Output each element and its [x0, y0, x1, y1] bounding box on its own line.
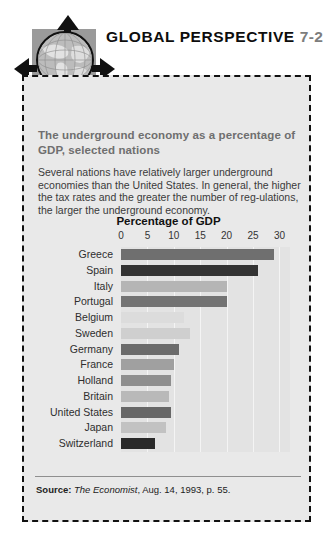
- bar: [121, 359, 174, 370]
- bar: [121, 312, 184, 323]
- category-label: United States: [24, 405, 117, 421]
- bar-row: [121, 263, 290, 279]
- category-label: Greece: [24, 247, 117, 263]
- content-box: The underground economy as a percentage …: [22, 75, 311, 522]
- x-tick-5: 5: [145, 230, 151, 241]
- source-publication: The Economist: [74, 484, 137, 495]
- arrow-left-stem: [27, 65, 37, 72]
- arrow-right-stem: [92, 65, 102, 72]
- bar-rows: [121, 247, 290, 452]
- x-axis-tick-labels: 051015202530: [121, 230, 290, 244]
- x-tick-30: 30: [274, 230, 285, 241]
- source-rest: , Aug. 14, 1993, p. 55.: [137, 484, 230, 495]
- bar: [121, 265, 258, 276]
- category-label: Britain: [24, 389, 117, 405]
- source-divider: [35, 476, 301, 477]
- bar-row: [121, 389, 290, 405]
- bar-row: [121, 279, 290, 295]
- category-label: Japan: [24, 420, 117, 436]
- bar: [121, 344, 179, 355]
- box-heading: The underground economy as a percentage …: [38, 128, 300, 158]
- category-label: Belgium: [24, 310, 117, 326]
- bar: [121, 422, 166, 433]
- bar-row: [121, 405, 290, 421]
- category-label: Italy: [24, 279, 117, 295]
- category-label: Germany: [24, 342, 117, 358]
- x-tick-20: 20: [221, 230, 232, 241]
- bar: [121, 375, 171, 386]
- bar: [121, 281, 227, 292]
- x-tick-10: 10: [168, 230, 179, 241]
- bar-row: [121, 436, 290, 452]
- bar-row: [121, 373, 290, 389]
- plot-area: [121, 247, 290, 452]
- bar-row: [121, 310, 290, 326]
- header-number: 7-2: [300, 28, 324, 45]
- bar-row: [121, 294, 290, 310]
- bar: [121, 296, 227, 307]
- bar: [121, 391, 169, 402]
- x-tick-0: 0: [118, 230, 124, 241]
- source-label: Source:: [36, 484, 71, 495]
- bar-row: [121, 342, 290, 358]
- category-label: Spain: [24, 263, 117, 279]
- header-title-text: GLOBAL PERSPECTIVE: [106, 28, 295, 45]
- category-label: Switzerland: [24, 436, 117, 452]
- x-tick-25: 25: [247, 230, 258, 241]
- bar-row: [121, 420, 290, 436]
- bar: [121, 328, 190, 339]
- source-line: Source: The Economist, Aug. 14, 1993, p.…: [36, 484, 302, 495]
- bar: [121, 407, 171, 418]
- category-label: France: [24, 357, 117, 373]
- category-label: Portugal: [24, 294, 117, 310]
- category-label: Holland: [24, 373, 117, 389]
- category-label: Sweden: [24, 326, 117, 342]
- x-tick-15: 15: [195, 230, 206, 241]
- bar-row: [121, 247, 290, 263]
- bar-row: [121, 326, 290, 342]
- bar-row: [121, 357, 290, 373]
- bar: [121, 249, 274, 260]
- chart-axis-title: Percentage of GDP: [24, 215, 313, 227]
- page-title: GLOBAL PERSPECTIVE 7-2: [106, 28, 323, 46]
- bar-chart: Percentage of GDP 051015202530 GreeceSpa…: [24, 215, 313, 460]
- category-labels: GreeceSpainItalyPortugalBelgiumSwedenGer…: [24, 247, 117, 452]
- box-body-text: Several nations have relatively larger u…: [38, 166, 302, 216]
- bar: [121, 438, 155, 449]
